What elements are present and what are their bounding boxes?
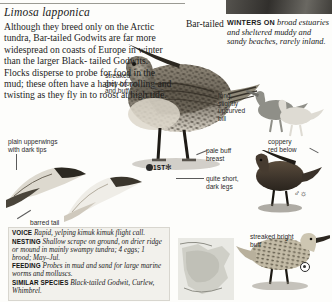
fact-box: VOICE Rapid, yelping kimuk kimuk flight … <box>12 229 166 295</box>
fact-voice-key: VOICE <box>12 229 32 236</box>
first-winter-label: 1ST <box>153 164 165 171</box>
winters-note: WINTERS ON broad estuaries and sheltered… <box>227 18 331 47</box>
leader-line-legs <box>176 178 204 179</box>
fact-nesting: NESTING Shallow scrape on ground, on dri… <box>12 238 166 262</box>
distribution-map <box>178 238 234 300</box>
field-guide-page: Limosa lapponica Although they breed onl… <box>0 0 332 302</box>
label-pale-buff-breast: pale buff breast <box>206 147 244 162</box>
label-long-bill: long, slightly upcurved bill <box>218 92 254 122</box>
juvenile-symbol-group <box>300 262 310 272</box>
leader-line-upperwings <box>16 154 17 170</box>
fact-voice-text: Rapid, yelping kimuk kimuk flight call. <box>34 229 145 237</box>
label-short-dark-legs: quite short, dark legs <box>206 175 250 190</box>
scientific-name: Limosa lapponica <box>4 6 179 18</box>
label-streaked-bright-buff: streaked bright buff <box>250 233 306 248</box>
label-barred-tail: barred tail <box>30 219 76 227</box>
fact-feeding-key: FEEDING <box>12 262 41 269</box>
label-coppery-red: coppery red below <box>268 138 310 153</box>
label-plain-upperwings: plain upperwings with dark tips <box>8 138 82 153</box>
label-streaked-upperparts: streaked grey-brown and buff <box>105 72 151 95</box>
fact-similar-key: SIMILAR SPECIES <box>12 279 68 286</box>
intro-line-6: these often have a habit <box>26 78 117 89</box>
fact-nesting-key: NESTING <box>12 238 41 245</box>
header-photo-strip <box>226 0 332 14</box>
header-divider <box>0 3 185 4</box>
common-name: Bar-tailed <box>186 19 224 29</box>
first-winter-symbol-group: 1ST✻ <box>146 163 172 172</box>
sun-icon: ☼ <box>300 189 307 198</box>
snowflake-icon: ✻ <box>165 163 172 172</box>
fact-similar: SIMILAR SPECIES Black-tailed Godwit, Cur… <box>12 279 166 295</box>
open-circle-icon <box>300 262 310 272</box>
fact-voice: VOICE Rapid, yelping kimuk kimuk flight … <box>12 229 166 237</box>
dark-circle-icon <box>146 164 153 171</box>
male-summer-godwit-illustration <box>246 150 322 216</box>
male-summer-symbol-group: ♂☼ <box>294 189 307 198</box>
silhouette-godwit-pale <box>268 96 324 138</box>
winters-caption: WINTERS ON <box>227 18 275 27</box>
fact-feeding: FEEDING Probes in mud and sand for large… <box>12 262 166 278</box>
